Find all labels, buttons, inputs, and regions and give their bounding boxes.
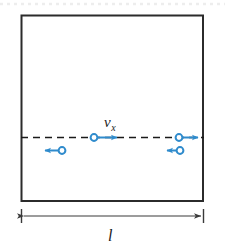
length-label: l [108, 227, 113, 244]
molecule-circle [59, 147, 66, 154]
velocity-label-symbol: v [104, 114, 111, 130]
molecule-circle [176, 134, 183, 141]
physics-diagram-figure: vx l [0, 0, 225, 248]
velocity-label-subscript: x [110, 122, 116, 133]
molecule-circle [91, 134, 98, 141]
molecule-circle [177, 147, 184, 154]
container-box [22, 16, 204, 202]
length-dimension [22, 209, 204, 223]
diagram-canvas: vx l [0, 0, 225, 248]
